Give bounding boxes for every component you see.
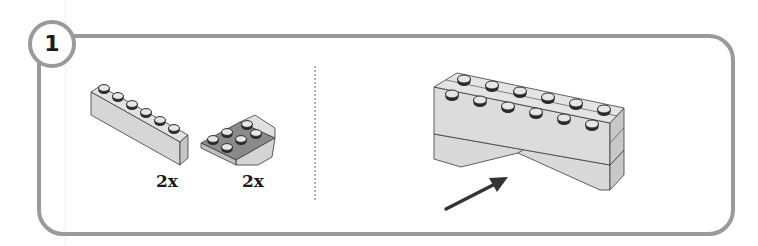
- arrow-icon: [446, 177, 508, 209]
- inverted-slope-icon: [201, 115, 275, 165]
- brick-1x6-icon: [91, 85, 188, 165]
- quantity-label: 2x: [156, 171, 178, 191]
- assembled-bricks-icon: [434, 73, 624, 190]
- quantity-label: 2x: [242, 171, 264, 191]
